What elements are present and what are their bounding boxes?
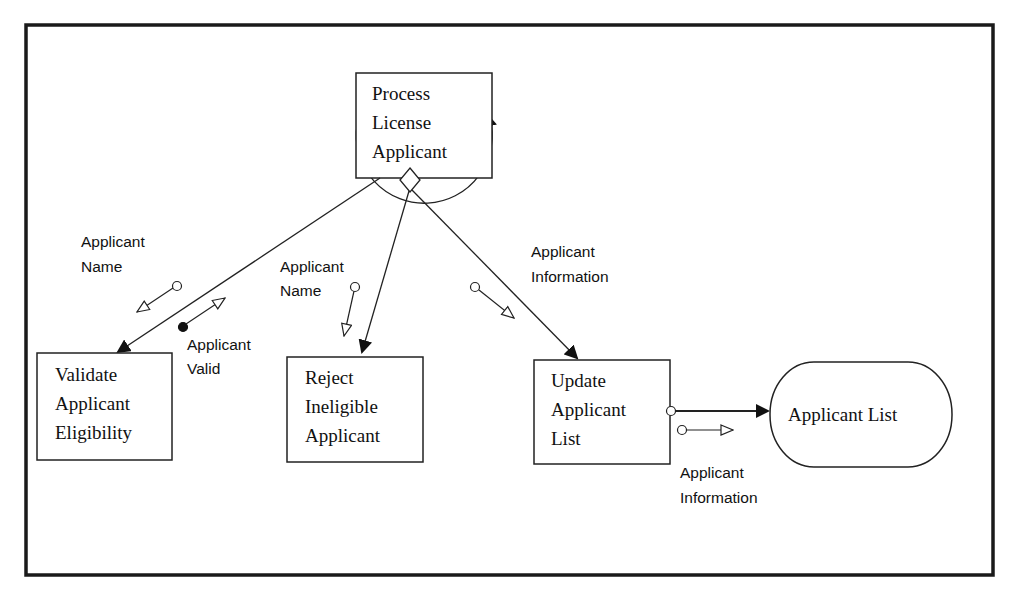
module-label-line: Ineligible bbox=[305, 396, 378, 417]
module-label-line: Applicant bbox=[551, 399, 627, 420]
couple-label-line: Information bbox=[680, 489, 758, 506]
open-circle-arrow-icon bbox=[678, 426, 687, 435]
module-update-applicant-list[interactable]: Update Applicant List bbox=[534, 360, 670, 464]
couple-label-line: Applicant bbox=[680, 464, 744, 481]
module-label-line: List bbox=[551, 428, 581, 449]
datastore-label: Applicant List bbox=[788, 404, 898, 425]
couple-label-line: Applicant bbox=[531, 243, 595, 260]
couple-validate-applicant-name: Applicant Name bbox=[81, 233, 182, 312]
module-label-line: Applicant bbox=[372, 141, 448, 162]
couple-label-line: Name bbox=[81, 258, 122, 275]
couple-reject-applicant-name: Applicant Name bbox=[280, 258, 360, 336]
open-circle-arrow-icon bbox=[351, 283, 360, 292]
module-label-line: Update bbox=[551, 370, 606, 391]
module-label-line: Applicant bbox=[55, 393, 131, 414]
module-validate-applicant-eligibility[interactable]: Validate Applicant Eligibility bbox=[37, 353, 172, 460]
diagram-frame bbox=[26, 25, 993, 575]
open-circle-arrow-icon bbox=[471, 283, 480, 292]
module-label-line: Validate bbox=[55, 364, 117, 385]
module-reject-ineligible-applicant[interactable]: Reject Ineligible Applicant bbox=[287, 357, 423, 462]
couple-label-line: Applicant bbox=[81, 233, 145, 250]
module-process-license-applicant[interactable]: Process License Applicant bbox=[356, 73, 492, 178]
couple-label-line: Information bbox=[531, 268, 609, 285]
couple-label-line: Name bbox=[280, 282, 321, 299]
module-label-line: License bbox=[372, 112, 431, 133]
module-label-line: Eligibility bbox=[55, 422, 133, 443]
couple-label-line: Valid bbox=[187, 360, 220, 377]
module-label-line: Applicant bbox=[305, 425, 381, 446]
couple-label-line: Applicant bbox=[187, 336, 251, 353]
couple-store-applicant-information: Applicant Information bbox=[678, 426, 758, 507]
connector-circle-icon bbox=[667, 407, 676, 416]
filled-circle-arrow-icon bbox=[179, 323, 188, 332]
datastore-applicant-list[interactable]: Applicant List bbox=[770, 362, 952, 467]
couple-applicant-valid: Applicant Valid bbox=[179, 298, 252, 377]
structure-chart: Process License Applicant Validate Appli… bbox=[0, 0, 1013, 600]
couple-label-line: Applicant bbox=[280, 258, 344, 275]
couple-update-applicant-information: Applicant Information bbox=[471, 243, 609, 318]
module-label-line: Reject bbox=[305, 367, 354, 388]
call-line-reject bbox=[362, 191, 409, 352]
module-label-line: Process bbox=[372, 83, 430, 104]
open-circle-arrow-icon bbox=[173, 282, 182, 291]
